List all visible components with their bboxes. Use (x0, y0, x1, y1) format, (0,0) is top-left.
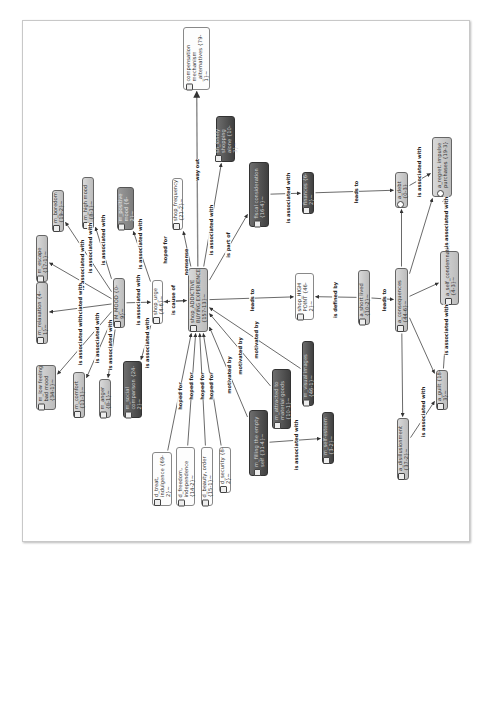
node-label: d_security {8-2}~ (219, 447, 231, 484)
node-relaxation[interactable]: m_relaxation {4-1}~ (36, 282, 48, 344)
node-filling[interactable]: m_filling the empty self {31-4}~ (249, 410, 268, 476)
node-urge[interactable]: shop_urge {4-6}~ (152, 280, 163, 324)
node-social[interactable]: m_social comparison {24-2}~ (123, 361, 142, 418)
node-label: m_social comparison {24-2}~ (124, 361, 142, 409)
document-icon (154, 499, 161, 506)
document-icon (100, 411, 107, 418)
node-label: a_self_condemnation {4-3}~ (444, 251, 456, 296)
node-label: sh_lonely shopping alone {10-3}~ (214, 116, 238, 153)
node-boredom[interactable]: m_boredom {19-2}~ (52, 190, 64, 232)
edge-label: way out (194, 159, 200, 181)
node-freedom[interactable]: d_freedom, independence {14-2}~ (176, 447, 195, 506)
node-highmood[interactable]: m_high mood {8-1}~ (82, 177, 94, 229)
node-content: a_consequences {44-6}~ (396, 268, 408, 332)
document-icon (152, 317, 159, 324)
edge-label: is associated with (443, 305, 449, 356)
node-content: shop_frequency {21-2}~ (172, 178, 184, 230)
node-partof[interactable]: fiscal consideration {16-4}~ (249, 162, 269, 227)
node-nonstop[interactable]: sh_lonely shopping alone {10-3}~ (216, 116, 235, 162)
edge-conseq-regret[interactable] (410, 199, 433, 274)
node-treat[interactable]: d_treat, indulgence {69-2}~ (152, 452, 172, 506)
edge-label: is associated with (420, 387, 426, 438)
document-icon (398, 473, 405, 480)
edge-label: hoped for (188, 372, 194, 399)
node-lowmood[interactable]: m_low feeling bad mood {34-1}~ (36, 365, 56, 410)
node-label: compensation mechanism _alternatives {79… (185, 27, 209, 81)
node-content: m_visual images {46-1}~ (302, 341, 314, 406)
node-material[interactable]: m_attracted to material goods {10-1}~ (272, 369, 291, 429)
node-content: a_debt {0-3} (396, 172, 408, 208)
document-icon (437, 403, 444, 410)
edge-label: is associated with (443, 197, 449, 248)
edge-conseq-guilt[interactable] (410, 318, 435, 374)
document-icon (323, 457, 330, 464)
node-shortlived[interactable]: a_short lived {10-2}~ (358, 270, 370, 325)
document-icon (214, 155, 221, 162)
node-beauty[interactable]: d_beauty, order {15-1}~ (201, 447, 213, 506)
document-icon (172, 223, 179, 230)
document-icon (254, 220, 261, 227)
node-anger[interactable]: m_anger {8-1}~ (99, 379, 111, 418)
node-content: m_relaxation {4-1}~ (36, 282, 48, 344)
node-comp[interactable]: compensation mechanism _alternatives {79… (183, 27, 210, 90)
node-label: M_MOOD {0-9}~ (113, 278, 125, 319)
node-content: a_guilt {18-3}~ (436, 370, 448, 410)
node-regret[interactable]: a_regret. impulse purchases {19-3} (432, 137, 452, 197)
edge-mood-lowmood[interactable] (58, 312, 112, 375)
edge-conseq-selfcond[interactable] (410, 283, 439, 296)
node-positive[interactable]: m_positive mood {6-2}~ (117, 187, 134, 230)
node-label: m_relaxation {4-1}~ (36, 282, 48, 335)
node-label: m_escape {17-1}~ (36, 235, 48, 273)
edge-label: hoped for (177, 382, 183, 409)
node-conseq[interactable]: a_consequences {44-6}~ (395, 268, 408, 332)
node-freq[interactable]: shop_frequency {21-2}~ (172, 178, 183, 230)
node-security[interactable]: d_security {8-2}~ (219, 447, 231, 493)
edge-conseq-disill[interactable] (402, 334, 403, 417)
node-selfcond[interactable]: a_self_condemnation {4-3}~ (440, 251, 459, 305)
document-icon (185, 83, 192, 90)
edge-label: is associated with (137, 219, 143, 270)
document-icon (303, 207, 310, 214)
edge-label: is associated with (100, 215, 106, 266)
node-finance[interactable]: finances {6-2}~ (302, 172, 314, 214)
node-visual[interactable]: m_visual images {46-1}~ (302, 341, 314, 406)
node-label: a_consequences {44-6}~ (396, 268, 408, 323)
node-content: m_low feeling bad mood {34-1}~ (37, 365, 55, 410)
node-main[interactable]: shop_ADDICTIVE BUYING EXPERIENCE {157-13… (188, 268, 208, 332)
node-label: a_disillusionment {37-2}~ (397, 418, 409, 471)
node-label: m_filling the empty self {31-4}~ (253, 410, 265, 467)
node-label: m_boredom {19-2}~ (52, 190, 64, 223)
node-content: a_disillusionment {37-2}~ (397, 418, 409, 480)
node-escape[interactable]: m_escape {17-1}~ (36, 235, 48, 282)
node-comfort[interactable]: m_comfort {11-1}~ (73, 372, 85, 418)
node-label: finances {6-2}~ (302, 172, 314, 205)
node-debt[interactable]: a_debt {0-3} (395, 172, 408, 208)
node-disill[interactable]: a_disillusionment {37-2}~ (397, 418, 409, 480)
edge-label: is associated with (77, 315, 83, 366)
node-mood[interactable]: M_MOOD {0-9}~ (113, 278, 125, 328)
edge-label: nonsense (183, 249, 189, 276)
node-label: shop_ADDICTIVE BUYING EXPERIENCE {157-13… (189, 268, 207, 323)
node-label: m_low feeling bad mood {34-1}~ (37, 365, 55, 401)
edge-label: is associated with (107, 320, 113, 371)
node-label: d_freedom, independence {14-2}~ (177, 447, 195, 497)
edge-label: is part of (225, 232, 231, 258)
document-icon (220, 486, 227, 493)
edge-label: is associated with (293, 420, 299, 471)
node-label: d_treat, indulgence {69-2}~ (153, 452, 171, 497)
node-selfesteem[interactable]: m_self-esteem {3-2}~ (322, 412, 334, 464)
node-label: a_guilt {18-3}~ (436, 370, 448, 401)
edge-label: leads to (381, 289, 387, 312)
document-icon (202, 499, 209, 506)
edge-label: is associated with (208, 205, 214, 256)
edge-label: is associated with (416, 147, 422, 198)
node-content: m_high mood {8-1}~ (82, 177, 94, 229)
node-highpoint[interactable]: shop_HIGH POINT {46-2}~ (295, 273, 314, 320)
document-icon (74, 411, 81, 418)
edge-label: is associated with (144, 318, 150, 369)
node-content: m_escape {17-1}~ (36, 235, 48, 282)
edge-label: motivated by (237, 337, 243, 374)
document-icon (117, 223, 124, 230)
node-guilt[interactable]: a_guilt {18-3}~ (436, 370, 448, 410)
node-content: fiscal consideration {16-4}~ (253, 162, 265, 227)
